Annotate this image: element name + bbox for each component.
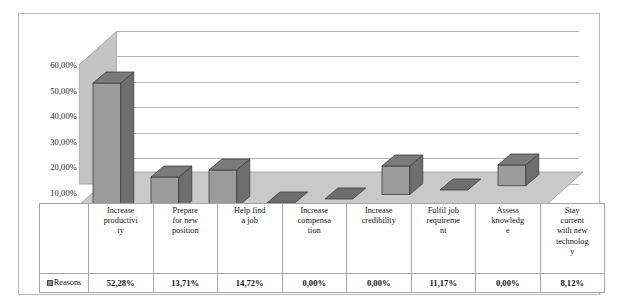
plot-area: 60,00%50,00%40,00%30,00%20,00%10,00%0,00…	[19, 14, 601, 204]
table-value-cell: 0,00%	[282, 274, 347, 293]
table-header-line: Stay	[542, 206, 604, 216]
table-header-line: tion	[284, 226, 346, 236]
bar-column	[380, 153, 425, 196]
legend-series-label: Reasons	[54, 278, 82, 287]
table-header-row: IncreaseproductivityPreparefor newpositi…	[40, 204, 605, 274]
table-value-cell: 13,71%	[153, 274, 218, 293]
gridline-50	[116, 56, 579, 57]
y-axis-tick-label: 30,00%	[23, 137, 77, 147]
table-header-cell: Staycurrentwith newtechnology	[540, 204, 605, 274]
table-header-line: technolog	[542, 237, 604, 247]
table-corner-cell	[40, 204, 89, 274]
y-axis: 60,00%50,00%40,00%30,00%20,00%10,00%0,00…	[19, 14, 77, 204]
table-header-line: nt	[413, 226, 475, 236]
table-header-line: for new	[155, 216, 217, 226]
legend-entry: Reasons	[40, 274, 89, 293]
bar-column	[323, 186, 368, 201]
table-header-cell: Fulfil jobrequirement	[411, 204, 476, 274]
table-header-line: Assess	[477, 206, 539, 216]
table-header-line: e	[477, 226, 539, 236]
bar-column	[91, 70, 136, 218]
table-values-row: Reasons 52,28%13,71%14,72%0,00%0,00%11,1…	[40, 274, 605, 293]
table-header-line: knowledg	[477, 216, 539, 226]
table-value-cell: 11,17%	[411, 274, 476, 293]
table-header-cell: Preparefor newposition	[153, 204, 218, 274]
table-value-cell: 0,00%	[347, 274, 412, 293]
y-axis-tick-label: 20,00%	[23, 162, 77, 172]
table-header-line: ty	[90, 226, 152, 236]
table-value-cell: 52,28%	[89, 274, 154, 293]
table-value-cell: 8,12%	[540, 274, 605, 293]
bar-column	[207, 157, 252, 210]
table-header-cell: Increaseproductivity	[89, 204, 154, 274]
table-header-line: with new	[542, 226, 604, 236]
table-header-line: Increase	[348, 206, 410, 216]
table-value-cell: 14,72%	[218, 274, 283, 293]
y-axis-tick-label: 10,00%	[23, 188, 77, 198]
gridline-60	[116, 31, 579, 32]
table-header-line: Help find	[219, 206, 281, 216]
table-header-line: credibility	[348, 216, 410, 226]
table-header-line: a job	[219, 216, 281, 226]
table-header-line: Increase	[284, 206, 346, 216]
table-header-line: Prepare	[155, 206, 217, 216]
legend-swatch-icon	[47, 280, 53, 286]
data-table: IncreaseproductivityPreparefor newpositi…	[39, 203, 605, 293]
table-header-line: compensa	[284, 216, 346, 226]
table-header-line: Increase	[90, 206, 152, 216]
y-axis-tick-label: 40,00%	[23, 111, 77, 121]
table-header-cell: Assessknowledge	[476, 204, 541, 274]
gridline-30	[116, 107, 579, 108]
table-header-line: y	[542, 247, 604, 257]
chart-frame: 60,00%50,00%40,00%30,00%20,00%10,00%0,00…	[18, 13, 600, 295]
y-axis-tick-label: 50,00%	[23, 86, 77, 96]
bar-column	[496, 152, 541, 188]
table-header-cell: Increasecompensation	[282, 204, 347, 274]
table-value-cell: 0,00%	[476, 274, 541, 293]
table-header-line: productivi	[90, 216, 152, 226]
table-header-line: current	[542, 216, 604, 226]
table-header-line: requireme	[413, 216, 475, 226]
table-header-line: Fulfil job	[413, 206, 475, 216]
bar-column	[438, 177, 483, 192]
y-axis-tick-label: 60,00%	[23, 60, 77, 70]
table-header-cell: Help finda job	[218, 204, 283, 274]
gridline-40	[116, 82, 579, 83]
gridline-20	[116, 133, 579, 134]
table-header-line: position	[155, 226, 217, 236]
table-header-cell: Increasecredibility	[347, 204, 412, 274]
